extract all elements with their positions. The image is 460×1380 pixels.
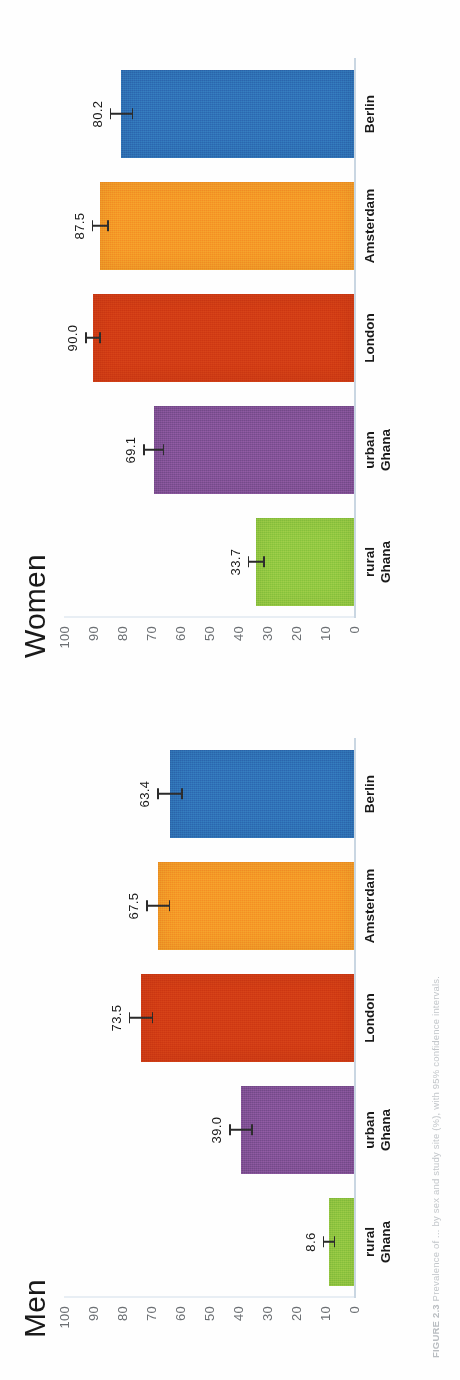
plot-area-women: 33.769.190.087.580.2 bbox=[64, 58, 356, 618]
error-bar bbox=[146, 905, 170, 907]
bar-group-women: 33.769.190.087.580.2 bbox=[64, 58, 354, 618]
figure-inner: Men 1009080706050403020100 8.639.073.567… bbox=[0, 0, 460, 1380]
bar-rural-ghana: 33.7 bbox=[256, 518, 354, 606]
bar-value-label: 33.7 bbox=[228, 549, 243, 576]
y-tick-100: 100 bbox=[57, 626, 72, 649]
x-axis-labels-women: ruralGhanaurbanGhanaLondonAmsterdamBerli… bbox=[362, 58, 410, 618]
y-tick-60: 60 bbox=[173, 626, 188, 641]
panel-men: Men 1009080706050403020100 8.639.073.567… bbox=[0, 700, 420, 1360]
bar-wrapper: 67.5 bbox=[64, 860, 354, 952]
x-label-urban-ghana: urbanGhana bbox=[362, 404, 410, 496]
bar-amsterdam: 67.5 bbox=[158, 862, 354, 950]
bar-london: 90.0 bbox=[93, 294, 354, 382]
error-bar-cap-top bbox=[143, 445, 145, 456]
bar-group-men: 8.639.073.567.563.4 bbox=[64, 738, 354, 1298]
y-tick-50: 50 bbox=[202, 626, 217, 641]
x-label-london: London bbox=[362, 292, 410, 384]
error-bar-cap-top bbox=[229, 1125, 231, 1136]
y-axis-ticks-men: 1009080706050403020100 bbox=[64, 1302, 356, 1340]
error-bar-cap-bottom bbox=[107, 221, 109, 232]
figure-caption-text: Prevalence of ... by sex and study site … bbox=[430, 976, 441, 1302]
y-tick-90: 90 bbox=[86, 626, 101, 641]
error-bar bbox=[143, 449, 164, 451]
error-bar bbox=[229, 1129, 252, 1131]
y-tick-20: 20 bbox=[289, 1306, 304, 1321]
bar-rural-ghana: 8.6 bbox=[329, 1198, 354, 1286]
error-bar-cap-bottom bbox=[132, 109, 134, 120]
y-tick-70: 70 bbox=[144, 1306, 159, 1321]
bar-value-label: 69.1 bbox=[123, 437, 138, 464]
panel-title-women: Women bbox=[18, 554, 52, 658]
y-tick-30: 30 bbox=[260, 1306, 275, 1321]
y-tick-100: 100 bbox=[57, 1306, 72, 1329]
error-bar bbox=[248, 561, 265, 563]
error-bar-cap-bottom bbox=[152, 1013, 154, 1024]
panel-women: Women 1009080706050403020100 33.769.190.… bbox=[0, 20, 420, 680]
plot-area-men: 8.639.073.567.563.4 bbox=[64, 738, 356, 1298]
y-tick-80: 80 bbox=[115, 626, 130, 641]
bar-berlin: 63.4 bbox=[170, 750, 354, 838]
y-tick-50: 50 bbox=[202, 1306, 217, 1321]
bar-value-label: 8.6 bbox=[303, 1232, 318, 1251]
y-tick-90: 90 bbox=[86, 1306, 101, 1321]
error-bar-cap-top bbox=[323, 1237, 325, 1248]
error-bar bbox=[110, 113, 133, 115]
y-tick-10: 10 bbox=[318, 1306, 333, 1321]
y-tick-60: 60 bbox=[173, 1306, 188, 1321]
x-label-amsterdam: Amsterdam bbox=[362, 860, 410, 952]
error-bar-cap-bottom bbox=[169, 901, 171, 912]
y-tick-20: 20 bbox=[289, 626, 304, 641]
error-bar bbox=[129, 1017, 153, 1019]
bar-berlin: 80.2 bbox=[121, 70, 354, 158]
error-bar-cap-top bbox=[157, 789, 159, 800]
bar-value-label: 63.4 bbox=[137, 781, 152, 808]
rotated-figure-container: Men 1009080706050403020100 8.639.073.567… bbox=[0, 0, 460, 1380]
bar-value-label: 90.0 bbox=[65, 325, 80, 352]
bar-wrapper: 8.6 bbox=[64, 1196, 354, 1288]
bar-wrapper: 87.5 bbox=[64, 180, 354, 272]
error-bar-cap-bottom bbox=[181, 789, 183, 800]
bar-wrapper: 90.0 bbox=[64, 292, 354, 384]
error-bar-cap-bottom bbox=[263, 557, 265, 568]
y-axis-ticks-women: 1009080706050403020100 bbox=[64, 622, 356, 660]
figure-caption-label: FIGURE 2.3 bbox=[430, 1304, 441, 1358]
error-bar bbox=[85, 337, 100, 339]
figure-caption: FIGURE 2.3 Prevalence of ... by sex and … bbox=[430, 18, 441, 1358]
bar-wrapper: 73.5 bbox=[64, 972, 354, 1064]
bar-value-label: 39.0 bbox=[209, 1117, 224, 1144]
error-bar-cap-bottom bbox=[163, 445, 165, 456]
error-bar-cap-top bbox=[129, 1013, 131, 1024]
error-bar bbox=[323, 1241, 336, 1243]
scanned-figure-page: Men 1009080706050403020100 8.639.073.567… bbox=[0, 0, 460, 1380]
y-tick-10: 10 bbox=[318, 626, 333, 641]
bar-value-label: 73.5 bbox=[109, 1005, 124, 1032]
bar-wrapper: 80.2 bbox=[64, 68, 354, 160]
error-bar bbox=[92, 225, 109, 227]
x-label-berlin: Berlin bbox=[362, 748, 410, 840]
error-bar-cap-top bbox=[92, 221, 94, 232]
bar-wrapper: 69.1 bbox=[64, 404, 354, 496]
x-label-rural-ghana: ruralGhana bbox=[362, 1196, 410, 1288]
y-tick-40: 40 bbox=[231, 1306, 246, 1321]
y-tick-80: 80 bbox=[115, 1306, 130, 1321]
bar-value-label: 80.2 bbox=[90, 101, 105, 128]
bar-urban-ghana: 39.0 bbox=[241, 1086, 354, 1174]
bar-amsterdam: 87.5 bbox=[100, 182, 354, 270]
y-tick-0: 0 bbox=[347, 1306, 362, 1314]
y-tick-0: 0 bbox=[347, 626, 362, 634]
x-axis-line-women bbox=[354, 58, 356, 618]
y-tick-40: 40 bbox=[231, 626, 246, 641]
error-bar-cap-bottom bbox=[99, 333, 101, 344]
bar-wrapper: 39.0 bbox=[64, 1084, 354, 1176]
bar-london: 73.5 bbox=[141, 974, 354, 1062]
panel-title-men: Men bbox=[18, 1279, 52, 1338]
y-tick-30: 30 bbox=[260, 626, 275, 641]
x-label-london: London bbox=[362, 972, 410, 1064]
bar-wrapper: 63.4 bbox=[64, 748, 354, 840]
error-bar-cap-bottom bbox=[334, 1237, 336, 1248]
error-bar-cap-top bbox=[146, 901, 148, 912]
bar-value-label: 87.5 bbox=[72, 213, 87, 240]
error-bar-cap-top bbox=[85, 333, 87, 344]
error-bar-cap-top bbox=[248, 557, 250, 568]
error-bar bbox=[157, 793, 183, 795]
